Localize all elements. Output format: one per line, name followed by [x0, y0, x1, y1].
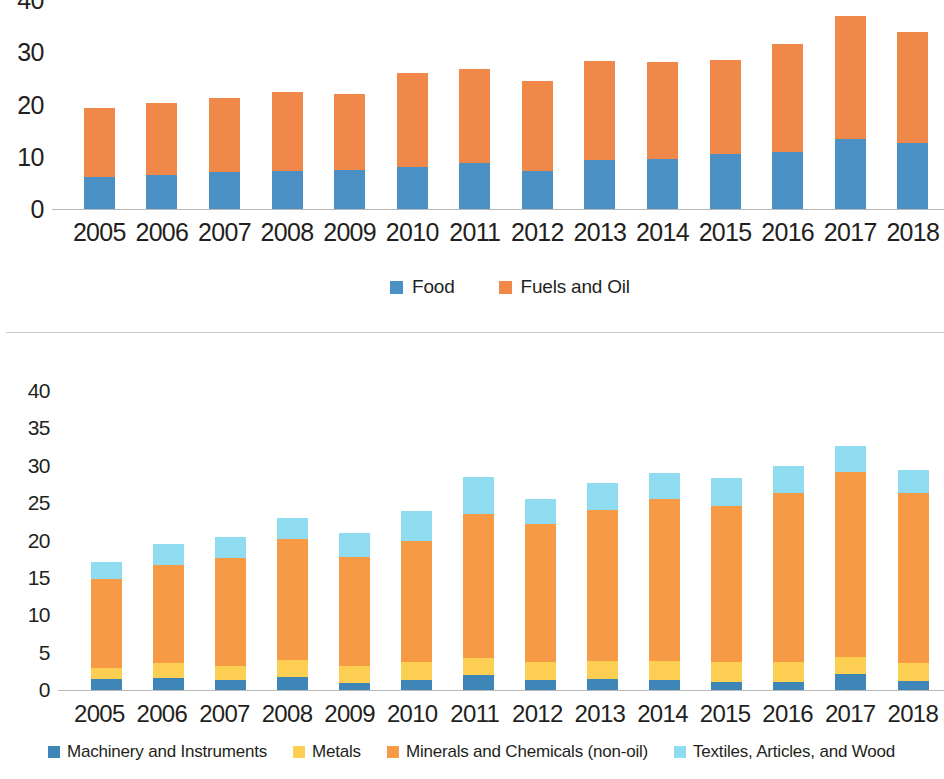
legend-item[interactable]: Minerals and Chemicals (non-oil)	[387, 742, 648, 762]
stacked-bar	[898, 470, 929, 690]
bar-segment	[339, 666, 370, 682]
x-tick-label: 2016	[756, 700, 819, 728]
x-tick-label: 2008	[256, 700, 319, 728]
x-tick-label: 2006	[131, 218, 194, 247]
bar-column	[68, 0, 131, 209]
bar-column	[569, 0, 632, 209]
legend-swatch-icon	[499, 281, 512, 294]
stacked-bar-charts-page: 010203040 200520062007200820092010201120…	[0, 0, 944, 779]
bar-column	[256, 0, 319, 209]
y-tick-label: 20	[0, 529, 50, 553]
bar-segment	[584, 61, 615, 160]
stacked-bar	[146, 103, 177, 209]
legend-label: Metals	[312, 742, 361, 762]
bar-segment	[397, 73, 428, 167]
legend-swatch-icon	[293, 746, 305, 758]
x-tick-label: 2018	[882, 218, 944, 247]
legend-swatch-icon	[674, 746, 686, 758]
x-tick-label: 2018	[882, 700, 944, 728]
legend-item[interactable]: Fuels and Oil	[499, 276, 630, 298]
legend-swatch-icon	[387, 746, 399, 758]
x-tick-label: 2007	[193, 218, 256, 247]
bar-segment	[710, 154, 741, 209]
stacked-bar	[772, 44, 803, 209]
y-tick-label: 30	[0, 38, 44, 67]
bottom-chart-panel: 0510152025303540 20052006200720082009201…	[0, 336, 944, 779]
bar-column	[318, 0, 381, 209]
stacked-bar	[272, 92, 303, 209]
stacked-bar	[277, 518, 308, 690]
bar-column	[447, 391, 509, 690]
bar-column	[758, 391, 820, 690]
legend-item[interactable]: Textiles, Articles, and Wood	[674, 742, 895, 762]
stacked-bar	[710, 60, 741, 209]
stacked-bar	[897, 32, 928, 209]
bar-segment	[401, 662, 432, 680]
bar-segment	[334, 170, 365, 209]
bar-column	[506, 0, 569, 209]
y-tick-label: 40	[0, 379, 50, 403]
bar-segment	[401, 541, 432, 662]
bar-column	[131, 0, 194, 209]
bar-segment	[835, 674, 866, 690]
x-tick-label: 2017	[819, 218, 882, 247]
bar-segment	[835, 139, 866, 209]
legend-item[interactable]: Metals	[293, 742, 361, 762]
bar-segment	[215, 558, 246, 666]
bar-segment	[711, 506, 742, 662]
bar-column	[385, 391, 447, 690]
stacked-bar	[711, 478, 742, 690]
y-tick-label: 5	[0, 641, 50, 665]
y-tick-label: 10	[0, 142, 44, 171]
bar-segment	[584, 160, 615, 209]
legend-item[interactable]: Machinery and Instruments	[48, 742, 267, 762]
x-tick-label: 2014	[631, 700, 694, 728]
bar-segment	[339, 683, 370, 690]
stacked-bar	[463, 477, 494, 690]
y-tick-label: 30	[0, 454, 50, 478]
bar-segment	[91, 668, 122, 679]
legend-label: Machinery and Instruments	[67, 742, 267, 762]
bar-segment	[215, 666, 246, 680]
x-tick-label: 2014	[631, 218, 694, 247]
bar-segment	[711, 478, 742, 506]
bar-segment	[463, 477, 494, 514]
bar-column	[882, 391, 944, 690]
x-tick-label: 2013	[569, 700, 632, 728]
bar-column	[694, 0, 757, 209]
bar-segment	[84, 108, 115, 176]
legend-swatch-icon	[48, 746, 60, 758]
bar-column	[696, 391, 758, 690]
x-tick-label: 2011	[443, 218, 506, 247]
bar-column	[510, 391, 572, 690]
bar-segment	[897, 32, 928, 143]
bar-segment	[153, 544, 184, 565]
y-tick-label: 20	[0, 90, 44, 119]
bar-segment	[522, 171, 553, 209]
bottom-chart-plot-area: 0510152025303540	[0, 391, 944, 691]
top-chart-bars	[68, 0, 944, 209]
bar-segment	[153, 565, 184, 663]
stacked-bar	[401, 511, 432, 690]
bar-segment	[898, 493, 929, 663]
bar-column	[756, 0, 819, 209]
bar-column	[323, 391, 385, 690]
bar-segment	[146, 103, 177, 175]
legend-item[interactable]: Food	[390, 276, 455, 298]
bar-column	[137, 391, 199, 690]
bar-segment	[401, 680, 432, 690]
bar-column	[634, 391, 696, 690]
bar-segment	[215, 537, 246, 558]
bar-segment	[522, 81, 553, 171]
panel-divider	[6, 332, 944, 333]
bar-segment	[587, 679, 618, 690]
bar-segment	[277, 660, 308, 677]
bar-segment	[459, 69, 490, 163]
x-tick-label: 2005	[68, 700, 131, 728]
stacked-bar	[587, 483, 618, 690]
bar-segment	[649, 661, 680, 680]
bar-segment	[459, 163, 490, 209]
bar-segment	[153, 678, 184, 690]
bar-segment	[209, 172, 240, 209]
y-tick-label: 40	[0, 0, 44, 15]
